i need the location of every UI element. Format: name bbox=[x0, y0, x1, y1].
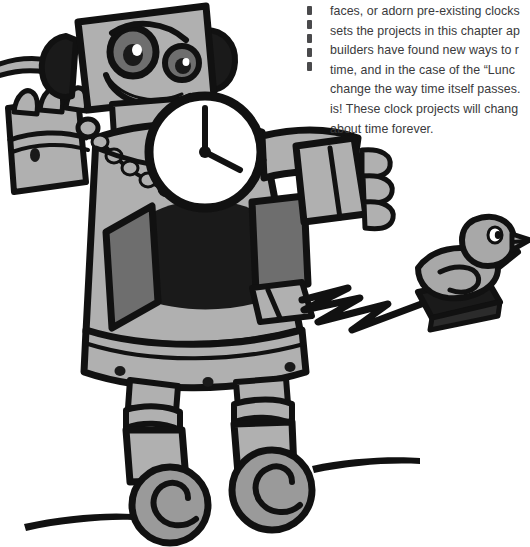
ground-lines bbox=[24, 457, 420, 531]
body-text-line: builders have found new ways to r bbox=[330, 41, 530, 61]
rule-dash bbox=[307, 34, 312, 43]
book-page: .ol{stroke:#111;stroke-linejoin:round;st… bbox=[0, 0, 530, 547]
body-text-line: sets the projects in this chapter ap bbox=[330, 22, 530, 42]
body-text-line: about time forever. bbox=[330, 120, 530, 140]
body-text-line: change the way time itself passes. bbox=[330, 80, 530, 100]
pull-toy bbox=[302, 217, 530, 330]
body-text-line: faces, or adorn pre-existing clocks bbox=[330, 2, 530, 22]
robot-legs bbox=[126, 378, 312, 543]
rule-dash bbox=[307, 20, 312, 29]
dashed-vertical-rule bbox=[307, 6, 312, 78]
rule-dash bbox=[307, 6, 312, 15]
chest-clock bbox=[149, 96, 261, 208]
body-text: faces, or adorn pre-existing clocks sets… bbox=[330, 2, 530, 139]
body-text-line: time, and in the case of the “Lunc bbox=[330, 61, 530, 81]
rule-dash bbox=[307, 48, 312, 57]
rule-dash bbox=[307, 62, 312, 71]
body-text-line: is! These clock projects will chang bbox=[330, 100, 530, 120]
